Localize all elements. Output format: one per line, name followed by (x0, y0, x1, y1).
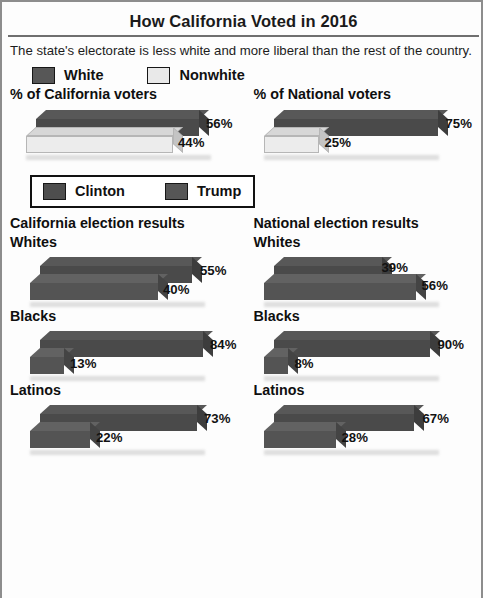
bar-trump-california-blacks[interactable] (30, 357, 64, 374)
bar-label-trump-california-whites: 40% (163, 282, 189, 297)
group-label-california-whites: Whites (10, 234, 244, 250)
candidate-legend: Clinton Trump (30, 175, 255, 208)
bar-label-trump-national-whites: 56% (422, 278, 448, 293)
infographic-content: How California Voted in 2016 The state's… (8, 8, 479, 594)
bar-label-clinton-california-whites: 55% (200, 263, 226, 278)
legend-label-white: White (64, 67, 103, 83)
bar-label-trump-california-latinos: 22% (96, 430, 122, 445)
legend-item-trump[interactable]: Trump (165, 183, 241, 200)
bar-trump-california-whites[interactable] (30, 283, 158, 300)
bar-label-clinton-california-latinos: 73% (204, 411, 230, 426)
bars-national-whites: 39% 56% (254, 252, 480, 308)
bar-shadow (26, 155, 211, 160)
title-divider (8, 35, 479, 37)
bar-trump-california-latinos[interactable] (30, 431, 90, 448)
race-legend: White Nonwhite (32, 67, 479, 84)
composition-california-bars: 56% 44% (10, 105, 244, 161)
results-national: National election results Whites 39% 56% (244, 215, 480, 456)
results-california-heading: California election results (10, 215, 244, 231)
legend-item-clinton[interactable]: Clinton (43, 183, 125, 200)
bar-top-face (40, 331, 213, 340)
bars-national-blacks: 90% 8% (254, 326, 480, 382)
bars-california-whites: 55% 40% (10, 252, 244, 308)
composition-california-heading: % of California voters (10, 86, 244, 102)
bars-california-blacks: 84% 13% (10, 326, 244, 382)
infographic-page: How California Voted in 2016 The state's… (0, 0, 483, 598)
bar-label-trump-national-blacks: 8% (295, 356, 314, 371)
group-label-california-blacks: Blacks (10, 308, 244, 324)
bar-top-face (264, 274, 426, 283)
bar-top-face (274, 257, 392, 266)
bar-label-white-california: 56% (206, 116, 232, 131)
bar-shadow (30, 450, 205, 455)
bar-front-face (26, 136, 173, 153)
composition-national-heading: % of National voters (254, 86, 480, 102)
legend-label-trump: Trump (197, 183, 241, 199)
bar-top-face (36, 110, 209, 119)
bar-label-clinton-national-whites: 39% (382, 260, 408, 275)
bar-top-face (30, 274, 168, 283)
results-national-heading: National election results (254, 215, 480, 231)
bar-label-clinton-california-blacks: 84% (210, 337, 236, 352)
bar-top-face (26, 127, 183, 136)
bar-shadow (264, 376, 439, 381)
group-label-california-latinos: Latinos (10, 382, 244, 398)
bar-nonwhite-california[interactable] (26, 136, 173, 153)
bar-trump-national-latinos[interactable] (264, 431, 336, 448)
composition-national: % of National voters 75% 25% (244, 86, 480, 161)
white-swatch-icon (32, 67, 55, 84)
page-title: How California Voted in 2016 (8, 12, 479, 31)
bar-front-face (30, 283, 158, 300)
bar-top-face (40, 405, 207, 414)
bar-top-face (274, 110, 448, 119)
clinton-swatch-icon (43, 183, 66, 200)
bars-california-latinos: 73% 22% (10, 400, 244, 456)
bar-front-face (264, 431, 336, 448)
bar-top-face (264, 422, 346, 431)
bar-shadow (264, 155, 439, 160)
group-label-national-blacks: Blacks (254, 308, 480, 324)
bar-front-face (30, 431, 90, 448)
bar-front-face (264, 283, 416, 300)
bar-front-face (30, 357, 64, 374)
group-label-national-latinos: Latinos (254, 382, 480, 398)
bar-label-clinton-national-blacks: 90% (438, 337, 464, 352)
bar-front-face (264, 136, 319, 153)
composition-california: % of California voters 56% 44% (8, 86, 244, 161)
results-section: California election results Whites 55% 4… (8, 215, 479, 456)
bar-shadow (264, 302, 439, 307)
bar-top-face (274, 331, 440, 340)
composition-section: % of California voters 56% 44% % of Nati… (8, 86, 479, 161)
bar-front-face (264, 357, 288, 374)
bar-label-nonwhite-national: 25% (325, 135, 351, 150)
bar-label-nonwhite-california: 44% (178, 135, 204, 150)
results-california: California election results Whites 55% 4… (8, 215, 244, 456)
bar-top-face (40, 257, 202, 266)
legend-item-white[interactable]: White (32, 67, 103, 84)
bar-trump-national-whites[interactable] (264, 283, 416, 300)
nonwhite-swatch-icon (147, 67, 170, 84)
page-subtitle: The state's electorate is less white and… (10, 43, 477, 60)
bar-label-trump-national-latinos: 28% (342, 430, 368, 445)
bars-national-latinos: 67% 28% (254, 400, 480, 456)
bar-shadow (30, 376, 205, 381)
bar-top-face (274, 405, 424, 414)
bar-shadow (30, 302, 205, 307)
group-label-national-whites: Whites (254, 234, 480, 250)
bar-label-trump-california-blacks: 13% (70, 356, 96, 371)
composition-national-bars: 75% 25% (254, 105, 480, 161)
legend-label-nonwhite: Nonwhite (179, 67, 244, 83)
bar-trump-national-blacks[interactable] (264, 357, 288, 374)
legend-item-nonwhite[interactable]: Nonwhite (147, 67, 244, 84)
bar-label-white-national: 75% (446, 116, 472, 131)
bar-nonwhite-national[interactable] (264, 136, 319, 153)
trump-swatch-icon (165, 183, 188, 200)
legend-label-clinton: Clinton (75, 183, 125, 199)
bar-shadow (264, 450, 439, 455)
bar-label-clinton-national-latinos: 67% (423, 411, 449, 426)
